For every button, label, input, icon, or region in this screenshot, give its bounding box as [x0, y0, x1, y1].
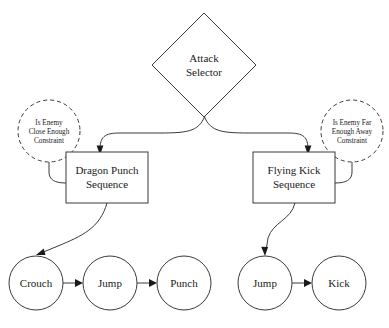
attack-selector-label-line2: Selector — [186, 66, 222, 78]
node-action-kick[interactable]: Kick — [312, 256, 366, 310]
arrowhead-flying-kick-to-jump — [261, 247, 268, 256]
edge-root-to-dragon-punch — [100, 113, 206, 150]
node-action-jump-left[interactable]: Jump — [83, 256, 137, 310]
flying-kick-label-line2: Sequence — [273, 178, 315, 190]
edge-right-constraint-to-flying-kick — [335, 160, 352, 183]
attack-selector-label-line1: Attack — [189, 52, 219, 64]
dragon-punch-label-line1: Dragon Punch — [75, 164, 139, 176]
edge-root-to-flying-kick — [203, 113, 308, 150]
arrowhead-jump-to-punch — [149, 279, 157, 287]
arrowhead-crouch-to-jump — [75, 279, 83, 287]
left-constraint-label-line2: Close Enough — [29, 128, 70, 136]
node-action-punch[interactable]: Punch — [157, 256, 211, 310]
node-dragon-punch-sequence[interactable]: Dragon Punch Sequence — [66, 152, 148, 203]
diagram-canvas: Attack Selector Is Enemy Close Enough Co… — [0, 0, 389, 328]
node-flying-kick-sequence[interactable]: Flying Kick Sequence — [253, 152, 335, 203]
node-action-jump-right[interactable]: Jump — [238, 256, 292, 310]
edge-left-constraint-to-dragon-punch — [49, 160, 66, 183]
right-constraint-label-line1: Is Enemy Far — [333, 119, 372, 127]
node-action-crouch[interactable]: Crouch — [9, 256, 63, 310]
dragon-punch-label-line2: Sequence — [86, 178, 128, 190]
edge-flying-kick-to-jump — [266, 203, 295, 251]
arrowhead-jump-to-kick — [304, 279, 312, 287]
right-constraint-label-line2: Enough Away — [332, 128, 373, 136]
behavior-tree-diagram: Attack Selector Is Enemy Close Enough Co… — [0, 0, 389, 328]
flying-kick-label-line1: Flying Kick — [268, 164, 321, 176]
jump-left-label: Jump — [98, 277, 122, 289]
arrowhead-dragon-punch-to-crouch — [36, 249, 46, 256]
crouch-label: Crouch — [20, 277, 53, 289]
left-constraint-label-line3: Constraint — [34, 137, 64, 145]
right-constraint-label-line3: Constraint — [337, 137, 367, 145]
kick-label: Kick — [328, 277, 350, 289]
punch-label: Punch — [170, 277, 198, 289]
edge-dragon-punch-to-crouch — [41, 203, 107, 253]
node-attack-selector[interactable]: Attack Selector — [152, 13, 256, 117]
left-constraint-label-line1: Is Enemy — [35, 119, 63, 127]
jump-right-label: Jump — [253, 277, 277, 289]
